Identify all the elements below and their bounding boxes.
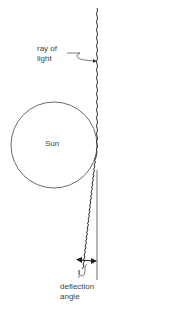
deflection-label-line1: deflection	[60, 282, 94, 292]
angle-arrowhead-right	[91, 258, 97, 264]
deflection-label-line2: angle	[60, 292, 80, 302]
sun-label: Sun	[45, 139, 59, 149]
ray-label-line2: light	[37, 54, 52, 64]
ray-label-line1: ray of	[37, 44, 57, 54]
ray-leader-line	[67, 53, 95, 61]
angle-leader-line	[79, 264, 87, 278]
incoming-ray	[97, 8, 98, 152]
angle-arrowhead-left	[76, 257, 82, 263]
diagram-canvas	[0, 0, 184, 313]
